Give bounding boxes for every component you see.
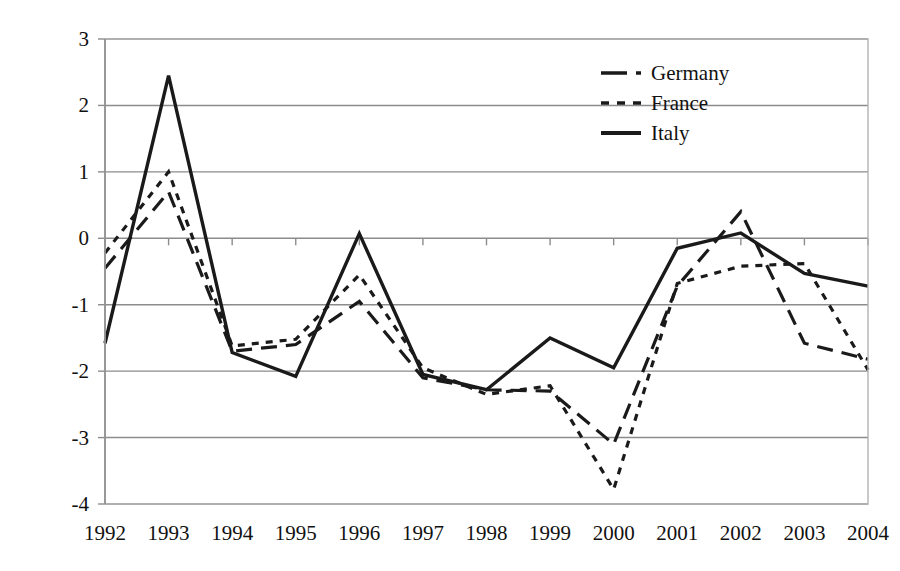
x-tick-label-1995: 1995: [275, 521, 317, 545]
y-tick-label: 3: [79, 27, 90, 51]
line-chart: 3210-1-2-3-4 199219931994199519961997199…: [0, 0, 900, 571]
x-tick-label-1994: 1994: [211, 521, 254, 545]
x-tick-label-2004: 2004: [847, 521, 890, 545]
y-tick-label: 0: [79, 226, 90, 250]
y-tick-label: -3: [72, 426, 90, 450]
x-tick-label-2002: 2002: [720, 521, 762, 545]
x-tick-label-1998: 1998: [466, 521, 508, 545]
legend-label-france: France: [651, 91, 708, 115]
y-tick-label: -1: [72, 293, 90, 317]
y-tick-label: 1: [79, 160, 90, 184]
chart-container: 3210-1-2-3-4 199219931994199519961997199…: [0, 0, 900, 571]
x-tick-label-1992: 1992: [84, 521, 126, 545]
chart-background: [0, 0, 900, 571]
x-tick-label-1993: 1993: [148, 521, 190, 545]
y-tick-label: 2: [79, 93, 90, 117]
legend-label-germany: Germany: [651, 61, 730, 85]
x-tick-label-2000: 2000: [593, 521, 635, 545]
x-tick-label-1996: 1996: [338, 521, 380, 545]
x-tick-label-1997: 1997: [402, 521, 444, 545]
x-tick-label-2001: 2001: [656, 521, 698, 545]
x-tick-label-1999: 1999: [529, 521, 571, 545]
y-tick-label: -2: [72, 359, 90, 383]
y-tick-label: -4: [72, 492, 90, 516]
legend-label-italy: Italy: [651, 121, 690, 145]
x-tick-label-2003: 2003: [783, 521, 825, 545]
